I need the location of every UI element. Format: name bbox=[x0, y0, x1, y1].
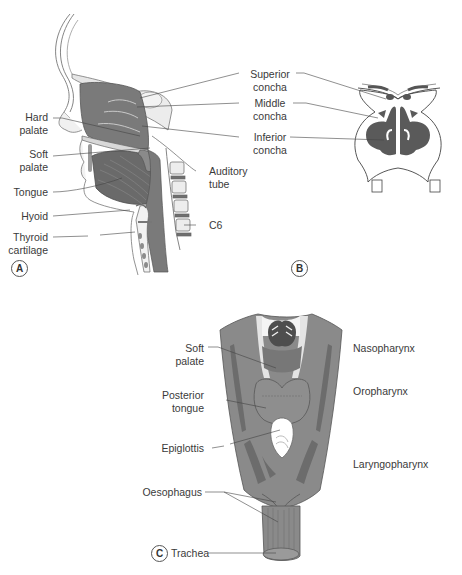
panel-label-c: C bbox=[151, 545, 168, 562]
label-nasopharynx: Nasopharynx bbox=[353, 342, 415, 355]
label-oropharynx: Oropharynx bbox=[353, 385, 408, 398]
label-superior-concha: Superior concha bbox=[246, 68, 294, 93]
label-thyroid-cartilage: Thyroid cartilage bbox=[0, 231, 48, 256]
label-c6: C6 bbox=[209, 219, 222, 232]
label-tongue: Tongue bbox=[4, 186, 48, 199]
label-trachea: Trachea bbox=[171, 547, 209, 560]
label-oesophagus: Oesophagus bbox=[140, 486, 202, 499]
label-soft-palate-c: Soft palate bbox=[160, 342, 204, 367]
panel-c-pharynx-drawing bbox=[220, 314, 342, 561]
label-hyoid: Hyoid bbox=[4, 210, 48, 223]
label-epiglottis: Epiglottis bbox=[150, 442, 204, 455]
label-soft-palate-a: Soft palate bbox=[10, 148, 48, 173]
label-posterior-tongue: Posterior tongue bbox=[150, 389, 204, 414]
panel-label-b: B bbox=[291, 260, 308, 277]
label-hard-palate: Hard palate bbox=[10, 111, 48, 136]
panel-a-sagittal-drawing bbox=[56, 14, 191, 275]
panel-label-a: A bbox=[11, 260, 28, 277]
label-middle-concha: Middle concha bbox=[246, 97, 294, 122]
label-laryngopharynx: Laryngopharynx bbox=[353, 458, 428, 471]
label-inferior-concha: Inferior concha bbox=[246, 131, 294, 156]
anatomy-figure bbox=[0, 0, 462, 575]
panel-b-coronal-drawing bbox=[355, 84, 441, 192]
label-auditory-tube: Auditory tube bbox=[209, 165, 248, 190]
